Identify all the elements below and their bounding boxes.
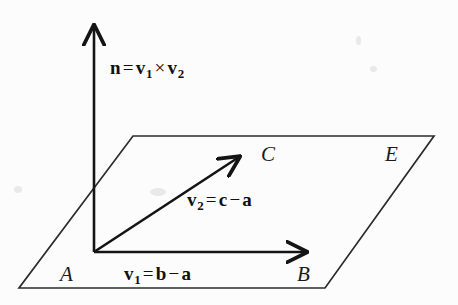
normal-v1-symbol: v [136,57,146,78]
normal-v2-subscript: 2 [177,66,184,81]
normal-v1-subscript: 1 [145,66,152,81]
normal-equals-sign: = [121,57,136,78]
v2-term-a: a [242,189,252,210]
point-label-b: B [297,264,310,285]
vector-v1-equation: v1=b−a [124,264,191,287]
normal-vector-equation: n=v1×v2 [110,58,184,81]
v2-equals-sign: = [204,189,219,210]
v2-symbol: v [187,189,197,210]
plane-label-e: E [385,144,398,165]
v2-minus-sign: − [227,189,242,210]
cross-product-sign: × [153,57,168,78]
v1-term-a: a [181,263,191,284]
vector-v2-equation: v2=c−a [187,190,252,213]
point-label-c: C [261,144,275,165]
normal-lhs-symbol: n [110,57,121,78]
v1-equals-sign: = [141,263,156,284]
v2-subscript: 2 [197,198,204,213]
normal-v2-symbol: v [167,57,177,78]
v1-term-b: b [156,263,167,284]
point-label-a: A [60,264,73,285]
v1-subscript: 1 [134,272,141,287]
v1-minus-sign: − [167,263,182,284]
v1-symbol: v [124,263,134,284]
vector-plane-diagram: n=v1×v2 v2=c−a v1=b−a A B C E [0,0,458,305]
